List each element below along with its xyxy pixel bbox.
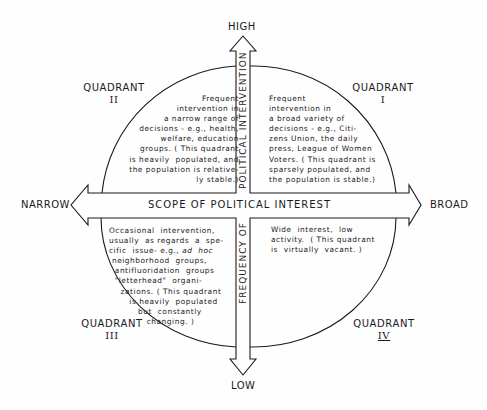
q3-rest: neighborhood groups, antifluoridation gr… [109,256,221,326]
vertical-axis-title-upper: POLITICAL INTERVENTION [238,61,248,189]
quadrant-1-description: Frequent intervention in a broad variety… [269,94,376,185]
quadrant-4-description: Wide interest, low activity. ( This quad… [271,225,375,255]
quadrant-4-label: QUADRANT IV [353,318,415,342]
q3-line3: cific issue- e.g., [109,246,182,255]
quadrant-1-title: QUADRANT [352,82,414,93]
quadrant-2-description: Frequent intervention in a narrow range … [129,94,239,185]
quadrant-4-numeral: IV [353,330,415,342]
quadrant-3-description: Occasional intervention, usually as rega… [109,226,224,327]
q3-line1: Occasional intervention, [109,226,215,235]
quadrant-2-title: QUADRANT [83,82,145,93]
horizontal-axis-title: SCOPE OF POLITICAL INTEREST [0,199,483,210]
quadrant-3-numeral: III [81,330,143,342]
vertical-axis-title-lower: FREQUENCY OF [238,219,248,307]
axis-high-label: HIGH [228,21,256,32]
q3-line2: usually as regards a spe- [109,236,224,245]
quadrant-4-title: QUADRANT [353,318,415,329]
q3-ad-hoc: ad hoc [182,246,213,255]
axis-low-label: LOW [231,380,255,391]
